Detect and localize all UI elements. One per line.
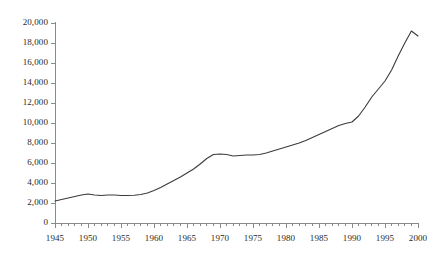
x-axis-tick-label: 1970 <box>204 233 236 243</box>
x-axis-tick-label: 1975 <box>237 233 269 243</box>
x-axis-tick-label: 1980 <box>270 233 302 243</box>
x-axis-tick-label: 1955 <box>105 233 137 243</box>
x-axis-tick-label: 1990 <box>336 233 368 243</box>
y-axis-tick-label: 10,000 <box>23 117 48 127</box>
y-axis-tick-label: 16,000 <box>23 57 48 67</box>
y-axis-tick-label: 6,000 <box>27 157 48 167</box>
x-axis-tick-label: 1965 <box>171 233 203 243</box>
y-axis-tick-label: 12,000 <box>23 97 48 107</box>
x-axis-tick-label: 1985 <box>303 233 335 243</box>
x-axis-tick-label: 1995 <box>369 233 401 243</box>
y-axis-tick-label: 18,000 <box>23 37 48 47</box>
chart-axes <box>55 22 418 223</box>
x-axis-tick-label: 1950 <box>72 233 104 243</box>
chart-tick-marks <box>51 23 418 228</box>
y-axis-tick-label: 8,000 <box>27 137 48 147</box>
y-axis-tick-label: 0 <box>43 217 48 227</box>
chart-series-lines <box>55 31 418 201</box>
y-axis-tick-label: 2,000 <box>27 197 48 207</box>
x-axis-tick-label: 1960 <box>138 233 170 243</box>
y-axis-tick-label: 20,000 <box>23 17 48 27</box>
y-axis-tick-label: 4,000 <box>27 177 48 187</box>
line-chart: 02,0004,0006,0008,00010,00012,00014,0001… <box>0 0 442 262</box>
chart-plot-area <box>0 0 442 262</box>
x-axis-tick-label: 2000 <box>402 233 434 243</box>
y-axis-tick-label: 14,000 <box>23 77 48 87</box>
x-axis-tick-label: 1945 <box>39 233 71 243</box>
